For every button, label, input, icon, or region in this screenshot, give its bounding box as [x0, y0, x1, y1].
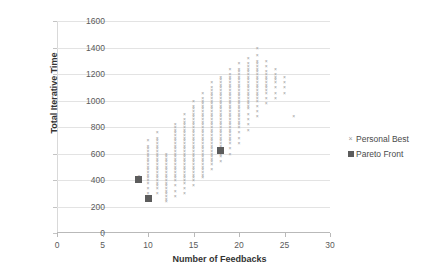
y-tick-label: 200 — [59, 202, 105, 212]
personal-best-point — [192, 99, 196, 103]
personal-best-point — [164, 199, 168, 203]
x-tick-mark — [57, 233, 58, 237]
legend-label-pareto-front: Pareto Front — [356, 149, 403, 159]
personal-best-point — [246, 122, 250, 126]
personal-best-point — [255, 99, 259, 103]
x-tick-mark — [239, 233, 240, 237]
personal-best-point — [228, 146, 232, 150]
scatter-chart: 02004006008001000120014001600 0510152025… — [0, 0, 439, 277]
personal-best-point — [255, 114, 259, 118]
x-tick-label: 0 — [55, 240, 60, 250]
y-tick-label: 600 — [59, 149, 105, 159]
personal-best-point — [283, 85, 287, 89]
chart-title-fragment — [0, 0, 439, 9]
pareto-front-point — [145, 195, 152, 202]
personal-best-point — [237, 61, 241, 65]
x-tick-mark — [330, 233, 331, 237]
x-tick-label: 15 — [189, 240, 198, 250]
x-axis-title: Number of Feedbacks — [0, 254, 439, 264]
personal-best-point — [264, 91, 268, 95]
x-tick-label: 5 — [100, 240, 105, 250]
y-tick-label: 1400 — [59, 43, 105, 53]
cross-marker-icon: × — [345, 133, 356, 144]
personal-best-point — [173, 183, 177, 187]
x-tick-label: 30 — [325, 240, 334, 250]
y-tick-label: 0 — [59, 228, 105, 238]
personal-best-point — [182, 191, 186, 195]
legend-item-pareto-front[interactable]: Pareto Front — [345, 146, 409, 161]
personal-best-point — [237, 130, 241, 134]
chart-legend: × Personal Best Pareto Front — [345, 131, 409, 161]
personal-best-point — [201, 175, 205, 179]
y-tick-label: 1600 — [59, 16, 105, 26]
legend-item-personal-best[interactable]: × Personal Best — [345, 131, 409, 146]
y-tick-label: 400 — [59, 175, 105, 185]
personal-best-point — [273, 85, 277, 89]
pareto-front-point — [217, 147, 224, 154]
x-tick-label: 10 — [143, 240, 152, 250]
personal-best-point — [255, 53, 259, 57]
personal-best-point — [273, 91, 277, 95]
x-tick-mark — [148, 233, 149, 237]
personal-best-point — [201, 91, 205, 95]
y-tick-mark — [53, 180, 57, 181]
personal-best-point — [273, 96, 277, 100]
x-tick-label: 20 — [234, 240, 243, 250]
x-tick-mark — [194, 233, 195, 237]
x-tick-mark — [103, 233, 104, 237]
personal-best-point — [283, 91, 287, 95]
personal-best-point — [237, 136, 241, 140]
y-tick-mark — [53, 154, 57, 155]
y-tick-label: 800 — [59, 122, 105, 132]
personal-best-point — [246, 128, 250, 132]
x-tick-label: 25 — [280, 240, 289, 250]
personal-best-point — [155, 191, 159, 195]
y-tick-mark — [53, 21, 57, 22]
personal-best-point — [255, 46, 259, 50]
personal-best-point — [246, 106, 250, 110]
personal-best-point — [237, 141, 241, 145]
personal-best-point — [173, 189, 177, 193]
x-tick-mark — [285, 233, 286, 237]
legend-label-personal-best: Personal Best — [356, 134, 409, 144]
y-tick-label: 1000 — [59, 96, 105, 106]
square-marker-icon — [345, 151, 356, 157]
y-tick-mark — [53, 207, 57, 208]
y-tick-label: 1200 — [59, 69, 105, 79]
personal-best-point — [146, 138, 150, 142]
personal-best-point — [155, 130, 159, 134]
y-axis-title: Total Iterative Time — [49, 33, 59, 153]
pareto-front-point — [135, 176, 142, 183]
personal-best-point — [292, 114, 296, 118]
personal-best-point — [264, 101, 268, 105]
personal-best-point — [192, 183, 196, 187]
personal-best-point — [173, 194, 177, 198]
personal-best-point — [228, 152, 232, 156]
personal-best-point — [219, 159, 223, 163]
personal-best-point — [210, 167, 214, 171]
